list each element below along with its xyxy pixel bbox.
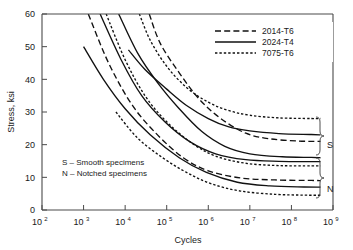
y-axis-title: Stress, ksi (6, 91, 16, 133)
y-tick-label: 60 (25, 9, 35, 19)
y-tick-label: 0 (30, 205, 35, 215)
svg-text:10: 10 (198, 217, 208, 227)
y-tick-label: 50 (25, 42, 35, 52)
svg-text:10: 10 (74, 217, 84, 227)
y-tick-label: 30 (25, 107, 35, 117)
x-axis-title: Cycles (174, 235, 202, 245)
chart-figure: 0102030405060 102103104105106107108109 S… (0, 0, 353, 250)
y-tick-label: 10 (25, 173, 35, 183)
sn-fatigue-chart: 0102030405060 102103104105106107108109 S… (0, 0, 353, 250)
legend-label-2014-t6: 2014-T6 (262, 26, 294, 36)
y-tick-label: 20 (25, 140, 35, 150)
svg-text:10: 10 (281, 217, 291, 227)
smooth-specimens-note: S – Smooth specimens (62, 158, 144, 167)
svg-text:10: 10 (32, 217, 42, 227)
svg-text:10: 10 (240, 217, 250, 227)
group-label-notched: N (327, 184, 334, 194)
legend-label-7075-t6: 7075-T6 (262, 48, 294, 58)
group-label-smooth: S (327, 140, 333, 150)
legend-label-2024-t4: 2024-T4 (262, 37, 294, 47)
svg-text:10: 10 (115, 217, 125, 227)
svg-text:10: 10 (157, 217, 167, 227)
legend: 2014-T6 2024-T4 7075-T6 (205, 22, 333, 62)
y-tick-label: 40 (25, 75, 35, 85)
notched-specimens-note: N – Notched specimens (62, 169, 147, 178)
svg-text:10: 10 (323, 217, 333, 227)
